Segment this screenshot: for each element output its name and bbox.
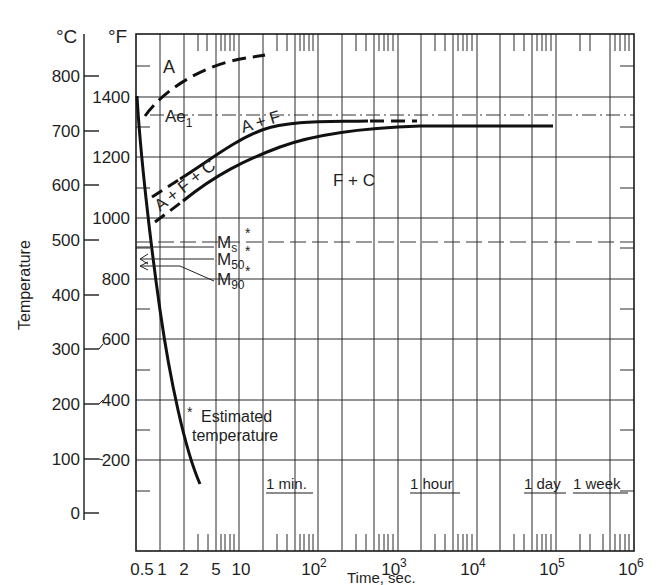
- label-ae1: Ae1: [165, 107, 193, 130]
- star-m50: *: [245, 243, 251, 259]
- svg-text:1000: 1000: [92, 209, 130, 228]
- svg-text:2: 2: [179, 560, 188, 579]
- grid-vertical: [160, 34, 610, 551]
- celsius-unit: °C: [56, 26, 77, 47]
- fahrenheit-tick-labels: 1400 1200 1000 800 600 400 200: [92, 88, 130, 470]
- svg-text:10: 10: [232, 560, 251, 579]
- svg-text:600: 600: [52, 176, 80, 195]
- svg-text:1200: 1200: [92, 148, 130, 167]
- svg-text:0.5: 0.5: [130, 560, 154, 579]
- svg-text:100: 100: [52, 450, 80, 469]
- svg-text:102: 102: [301, 556, 327, 579]
- svg-text:104: 104: [460, 556, 486, 579]
- svg-text:600: 600: [102, 330, 130, 349]
- time-markers: 1 min. 1 hour 1 day 1 week: [266, 475, 628, 493]
- svg-text:1 day: 1 day: [524, 475, 561, 492]
- svg-text:400: 400: [52, 286, 80, 305]
- svg-text:200: 200: [102, 451, 130, 470]
- svg-text:400: 400: [102, 391, 130, 410]
- label-austenite: A: [163, 57, 175, 77]
- svg-text:105: 105: [539, 556, 565, 579]
- plot-frame: [136, 34, 634, 551]
- x-axis-label: Time, sec.: [347, 569, 416, 585]
- svg-text:1: 1: [157, 560, 166, 579]
- svg-text:5: 5: [211, 560, 220, 579]
- estimated-star: *: [187, 404, 193, 420]
- star-ms: *: [245, 225, 251, 241]
- svg-text:0: 0: [71, 504, 80, 523]
- martensite-leaders: [136, 247, 214, 281]
- fahrenheit-unit: °F: [108, 26, 127, 47]
- svg-text:300: 300: [52, 340, 80, 359]
- label-a-plus-f-plus-c: A + F + C: [151, 156, 219, 215]
- svg-text:700: 700: [52, 122, 80, 141]
- star-m90: *: [245, 263, 251, 279]
- svg-text:800: 800: [102, 270, 130, 289]
- label-f-plus-c: F + C: [333, 171, 375, 190]
- svg-text:1400: 1400: [92, 88, 130, 107]
- label-m50: M50: [217, 250, 245, 272]
- svg-text:1 week: 1 week: [573, 475, 621, 492]
- ttt-diagram: °C °F 800 700 600 500 400 300 200 100 0 …: [0, 0, 666, 585]
- svg-text:106: 106: [618, 556, 644, 579]
- label-m90: M90: [217, 270, 245, 292]
- svg-text:500: 500: [52, 231, 80, 250]
- svg-text:800: 800: [52, 67, 80, 86]
- estimated-line2: temperature: [192, 427, 278, 444]
- svg-text:1 hour: 1 hour: [410, 475, 453, 492]
- svg-text:1 min.: 1 min.: [266, 475, 307, 492]
- celsius-tick-labels: 800 700 600 500 400 300 200 100 0: [52, 67, 80, 523]
- svg-text:200: 200: [52, 395, 80, 414]
- grid-horizontal: [136, 97, 634, 460]
- quench-curve: [137, 96, 200, 484]
- estimated-line1: Estimated: [201, 408, 272, 425]
- label-a-plus-f: A + F: [239, 107, 283, 137]
- y-axis-label: Temperature: [16, 240, 33, 330]
